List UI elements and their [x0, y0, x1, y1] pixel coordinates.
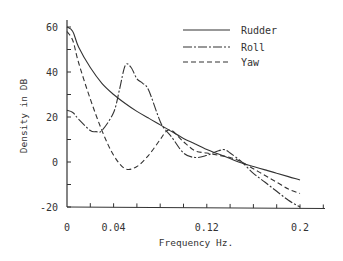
y-tick-label: 60: [46, 22, 58, 33]
x-axis-label: Frequency Hz.: [159, 237, 233, 248]
y-axis-label: Density in DB: [18, 79, 29, 154]
axes: -20020406000.040.120.2: [40, 20, 325, 233]
x-tick-label: 0.2: [291, 222, 309, 233]
legend: RudderRollYaw: [183, 25, 277, 68]
x-tick-label: 0: [64, 222, 70, 233]
line-chart: -20020406000.040.120.2 RudderRollYaw Fre…: [0, 0, 343, 261]
series-roll-line: [67, 64, 300, 207]
x-tick-label: 0.04: [102, 222, 126, 233]
series-group: [67, 27, 300, 207]
y-tick-label: 20: [46, 112, 58, 123]
x-axis-line: [67, 207, 325, 209]
y-tick-label: -20: [40, 202, 58, 213]
legend-label-roll: Roll: [241, 42, 265, 53]
x-tick-label: 0.12: [195, 222, 219, 233]
y-tick-label: 40: [46, 67, 58, 78]
series-yaw-line: [67, 32, 300, 194]
legend-label-yaw: Yaw: [241, 57, 260, 68]
legend-label-rudder: Rudder: [241, 25, 277, 36]
y-tick-label: 0: [52, 157, 58, 168]
